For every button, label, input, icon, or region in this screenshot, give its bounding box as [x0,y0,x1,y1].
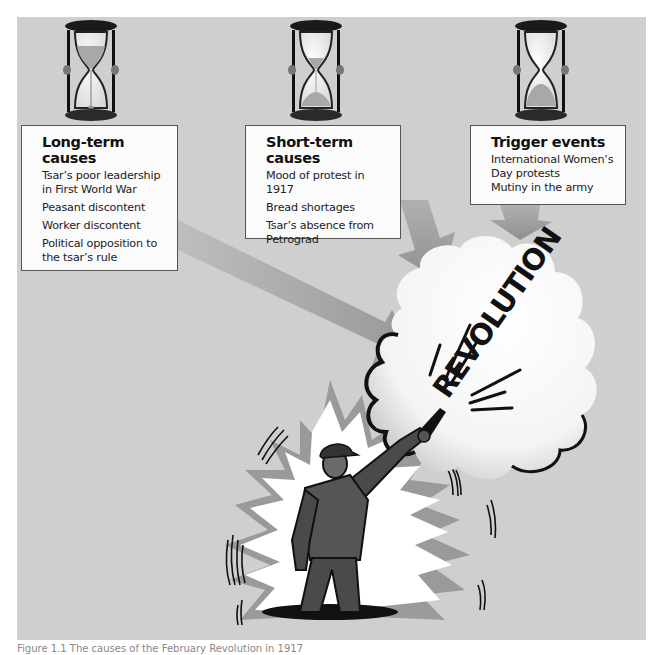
long-term-cause-item: Tsar’s poor leadership in First World Wa… [42,169,167,197]
short-term-cause-item: Mood of protest in 1917 [266,169,390,197]
long-term-causes-box: Long-term causes Tsar’s poor leadership … [21,125,178,271]
long-term-cause-item: Peasant discontent [42,201,167,215]
trigger-events-box: Trigger events International Women’s Day… [470,125,626,205]
trigger-events-title: Trigger events [491,134,615,150]
long-term-causes-title: Long-term causes [42,134,167,166]
figure-caption: Figure 1.1 The causes of the February Re… [17,643,303,654]
diagram-artwork: REVOLUTION [0,0,660,655]
trigger-event-item: International Women’s Day protests [491,153,615,181]
trigger-event-item: Mutiny in the army [491,181,615,195]
long-term-cause-item: Worker discontent [42,219,167,233]
hourglass-icon-long-term [63,20,119,121]
long-term-cause-item: Political opposition to the tsar’s rule [42,237,167,265]
short-term-cause-item: Bread shortages [266,201,390,215]
hourglass-icon-trigger [513,20,569,121]
short-term-causes-title: Short-term causes [266,134,390,166]
short-term-cause-item: Tsar’s absence from Petrograd [266,219,390,247]
short-term-causes-box: Short-term causes Mood of protest in 191… [245,125,401,239]
hourglass-icon-short-term [288,20,344,121]
